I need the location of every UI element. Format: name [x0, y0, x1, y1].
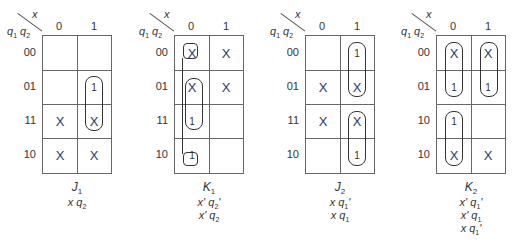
col-header-1: 1: [209, 20, 243, 32]
col-variable-label: x: [32, 8, 38, 20]
grouping-loop: [183, 152, 198, 166]
kmap-j1: x q1 q2 0 1 00 01 11 10 1 X X X X J1 x q…: [0, 0, 130, 243]
cell: [209, 138, 243, 172]
row-header-01: 01: [144, 80, 168, 92]
row-header-10: 10: [144, 148, 168, 160]
col-header-0: 0: [305, 20, 339, 32]
col-variable-label: x: [164, 8, 170, 20]
term-0: x q2: [42, 196, 112, 210]
row-header-10: 10: [406, 114, 430, 126]
row-header-01: 01: [12, 80, 36, 92]
cell: [306, 138, 340, 172]
col-header-0: 0: [436, 20, 470, 32]
col-variable-label: x: [295, 8, 301, 20]
grouping-loop: [445, 42, 463, 97]
cell: X: [209, 36, 243, 70]
row-header-11: 11: [144, 114, 168, 126]
col-header-1: 1: [77, 20, 111, 32]
function-name: J1: [42, 180, 112, 196]
col-variable-label: x: [426, 8, 432, 20]
row-header-11: 11: [12, 114, 36, 126]
function-name: J2: [305, 180, 375, 196]
kmap-k1: x q1 q2 0 1 00 01 11 10 X X X X 1 1 K1 x…: [132, 0, 262, 243]
row-variable-label: q1 q2: [270, 25, 293, 39]
row-header-01: 01: [406, 80, 430, 92]
grouping-loop: [185, 78, 203, 130]
row-variable-label: q1 q2: [401, 25, 424, 39]
col-header-1: 1: [340, 20, 374, 32]
grouping-loop: [183, 43, 198, 59]
grouping-loop: [445, 111, 463, 166]
row-header-01: 01: [275, 80, 299, 92]
row-header-00: 00: [12, 46, 36, 58]
row-header-10: 10: [406, 148, 430, 160]
row-variable-label: q1 q2: [139, 25, 162, 39]
cell: [43, 36, 77, 70]
row-header-00: 00: [406, 46, 430, 58]
cell: X: [306, 70, 340, 104]
kmap-k2: x q1 q2 0 1 00 01 10 10 X X 1 1 1 X X K2…: [394, 0, 515, 243]
function-name: K1: [174, 180, 244, 196]
row-header-00: 00: [275, 46, 299, 58]
row-header-11: 11: [275, 114, 299, 126]
term-1: x' q2: [174, 209, 244, 223]
cell: X: [43, 138, 77, 172]
term-1: x q1: [305, 209, 375, 223]
row-header-10: 10: [12, 148, 36, 160]
cell: [306, 36, 340, 70]
col-header-0: 0: [42, 20, 76, 32]
cell: X: [306, 104, 340, 138]
cell: X: [209, 70, 243, 104]
grouping-loop: [348, 42, 366, 97]
cell: [77, 36, 111, 70]
row-header-00: 00: [144, 46, 168, 58]
grouping-loop: [480, 42, 498, 97]
cell: X: [77, 138, 111, 172]
row-variable-label: q1 q2: [7, 25, 30, 39]
grouping-loop: [85, 76, 103, 131]
cell: X: [43, 104, 77, 138]
cell: X: [471, 138, 505, 172]
function-name: K2: [436, 180, 506, 196]
col-header-0: 0: [174, 20, 208, 32]
kmap-j2: x q1 q2 0 1 00 01 11 10 1 X X X X 1 J2 x…: [263, 0, 393, 243]
row-header-10: 10: [275, 148, 299, 160]
cell: [471, 104, 505, 138]
grouping-loop: [348, 111, 366, 166]
wrap-around-link: [182, 58, 183, 154]
cell: [43, 70, 77, 104]
cell: [209, 104, 243, 138]
term-2: x q1': [436, 222, 506, 236]
col-header-1: 1: [471, 20, 505, 32]
